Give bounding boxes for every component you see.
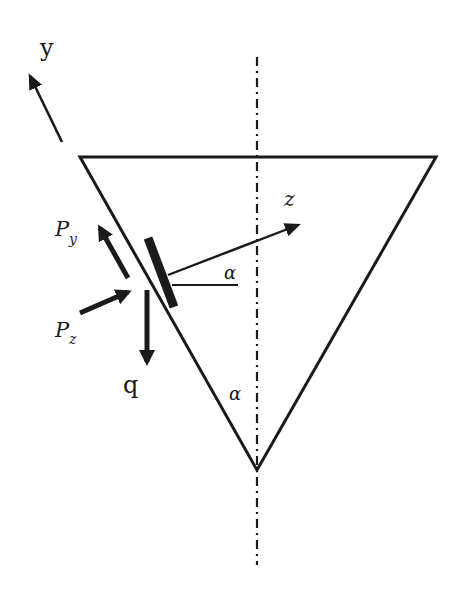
svg-text:z: z [68,331,77,347]
cone-force-diagram: y z α α P y P z q [0,0,453,591]
alpha-apex-label: α [229,383,241,404]
load-q-label: q [123,371,138,399]
plate-element [148,238,174,307]
svg-text:y: y [68,231,78,247]
force-pz-arrow [80,292,128,313]
y-axis-label: y [39,34,54,62]
svg-text:P: P [54,217,70,241]
force-py-label: P y [54,217,78,247]
y-axis-arrow [30,76,62,142]
svg-text:P: P [54,318,70,342]
z-axis-label: z [283,187,295,211]
alpha-upper-label: α [224,262,236,283]
force-pz-label: P z [54,318,77,347]
